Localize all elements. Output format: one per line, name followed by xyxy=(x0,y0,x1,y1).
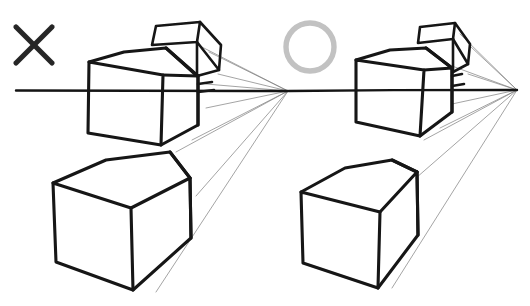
left-horizon-line xyxy=(16,90,288,91)
paper-background xyxy=(0,0,530,306)
right-horizon-line xyxy=(289,90,517,91)
perspective-sketch-canvas xyxy=(0,0,530,306)
